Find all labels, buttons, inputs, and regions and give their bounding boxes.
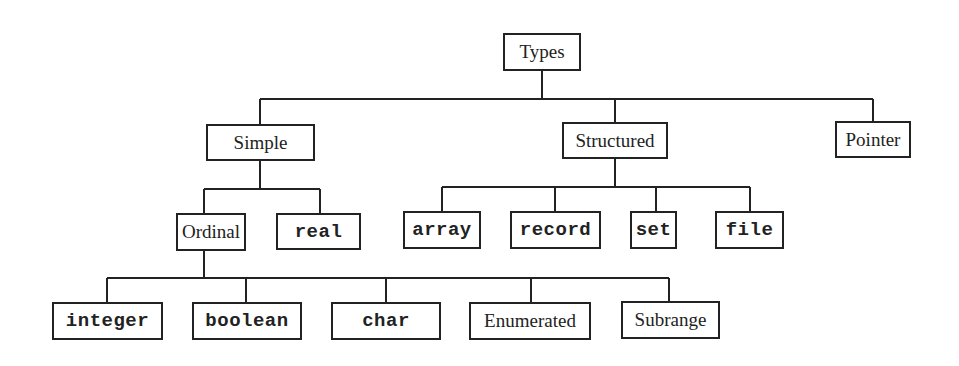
- node-label: record: [520, 219, 591, 241]
- node-integer: integer: [52, 302, 163, 340]
- node-label: array: [412, 219, 472, 241]
- node-subrange: Subrange: [621, 301, 720, 339]
- node-structured: Structured: [562, 122, 668, 159]
- node-label: boolean: [205, 310, 288, 332]
- node-label: set: [636, 219, 672, 241]
- node-array: array: [403, 211, 481, 249]
- node-label: file: [726, 219, 774, 241]
- node-boolean: boolean: [192, 302, 302, 340]
- node-record: record: [510, 211, 601, 249]
- node-enumerated: Enumerated: [469, 302, 591, 340]
- node-set: set: [630, 211, 677, 249]
- node-label: char: [362, 310, 410, 332]
- node-label: integer: [66, 310, 149, 332]
- node-label: Ordinal: [182, 221, 240, 243]
- node-simple: Simple: [206, 124, 315, 161]
- node-label: Types: [519, 41, 564, 63]
- node-ordinal: Ordinal: [176, 213, 246, 251]
- node-label: real: [295, 221, 343, 243]
- node-label: Simple: [234, 132, 288, 154]
- node-types: Types: [503, 33, 581, 71]
- type-hierarchy-diagram: Types Simple Structured Pointer Ordinal …: [0, 0, 959, 366]
- node-file: file: [715, 211, 784, 249]
- node-label: Pointer: [846, 129, 901, 151]
- node-real: real: [276, 213, 361, 250]
- node-char: char: [331, 302, 441, 340]
- node-label: Subrange: [635, 309, 707, 331]
- node-pointer: Pointer: [835, 121, 911, 158]
- node-label: Enumerated: [484, 310, 576, 332]
- node-label: Structured: [575, 130, 654, 152]
